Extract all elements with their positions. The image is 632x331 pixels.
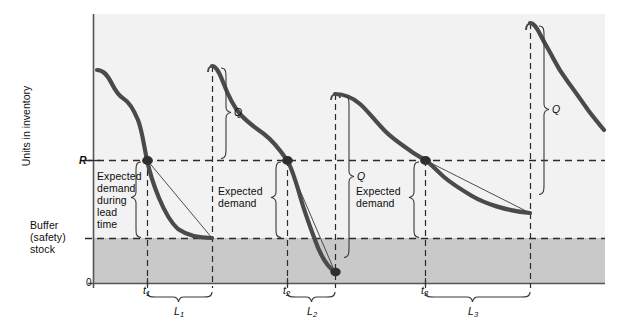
time-marker-1: t1 [143, 284, 150, 300]
buffer-stock-label: Buffer (safety) stock [30, 219, 66, 255]
lead-time-label-1: L1 [174, 305, 184, 321]
origin-label: 0 [86, 277, 92, 289]
order-quantity-label-2: Q [357, 170, 365, 182]
reorder-point-marker-1 [142, 156, 153, 165]
lead-time-bracket-3 [425, 292, 530, 302]
lead-time-bracket-2 [287, 292, 335, 302]
expected-demand-lead-time-label: Expected demand during lead time [97, 170, 142, 230]
time-marker-3: t3 [421, 284, 428, 300]
lead-time-label-2: L2 [307, 305, 317, 321]
inventory-chart-figure: Units in inventory [0, 0, 632, 331]
reorder-point-marker-2 [282, 156, 293, 165]
lead-time-label-3: L3 [468, 305, 478, 321]
order-quantity-label-3: Q [552, 103, 560, 115]
stockout-low-marker-2 [330, 268, 340, 276]
lead-time-bracket-1 [147, 292, 212, 302]
time-marker-2: t2 [283, 284, 290, 300]
expected-demand-label-2: Expected demand [218, 185, 263, 209]
order-quantity-label-1: Q [234, 106, 242, 118]
reorder-point-marker-3 [420, 156, 431, 165]
chart-canvas [0, 0, 632, 331]
expected-demand-label-3: Expected demand [356, 185, 401, 209]
reorder-point-label: R [79, 154, 87, 166]
